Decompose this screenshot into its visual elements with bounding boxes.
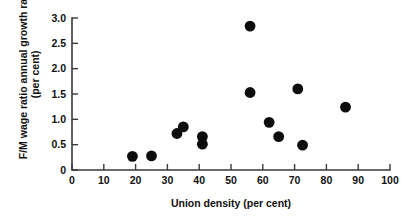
- data-point: [146, 150, 157, 161]
- x-axis-title: Union density (per cent): [171, 197, 291, 209]
- x-tick-label: 20: [130, 174, 142, 186]
- data-point: [245, 21, 256, 32]
- data-point: [127, 151, 138, 162]
- x-tick-label: 30: [162, 174, 174, 186]
- y-tick-label: 0.5: [51, 138, 66, 150]
- y-tick-label: 2.0: [51, 62, 66, 74]
- x-tick-label: 50: [225, 174, 237, 186]
- x-tick-label: 0: [69, 174, 75, 186]
- data-point: [273, 131, 284, 142]
- x-axis-ticks: 0102030405060708090100: [69, 164, 399, 186]
- y-tick-label: 1.0: [51, 113, 66, 125]
- axis-spine: [72, 18, 390, 170]
- y-axis-title: F/M wage ratio annual growth rate (per c…: [17, 0, 42, 159]
- axes: [72, 18, 390, 170]
- x-tick-label: 70: [289, 174, 301, 186]
- x-tick-label: 80: [321, 174, 333, 186]
- x-tick-label: 100: [381, 174, 399, 186]
- x-tick-label: 60: [257, 174, 269, 186]
- data-point: [178, 122, 189, 133]
- y-tick-label: 1.5: [51, 88, 66, 100]
- x-tick-label: 10: [98, 174, 110, 186]
- y-axis-title-line-1: F/M wage ratio annual growth rate: [17, 0, 29, 159]
- scatter-chart-figure: 0102030405060708090100 00.51.01.52.02.53…: [0, 0, 412, 217]
- x-tick-label: 40: [193, 174, 205, 186]
- data-points: [127, 21, 351, 162]
- data-point: [340, 102, 351, 113]
- y-tick-label: 2.5: [51, 37, 66, 49]
- y-tick-label: 3.0: [51, 12, 66, 24]
- y-axis-title-line-2: (per cent): [29, 0, 41, 159]
- x-tick-label: 90: [352, 174, 364, 186]
- y-tick-label: 0: [60, 164, 66, 176]
- data-point: [197, 139, 208, 150]
- y-axis-ticks: 00.51.01.52.02.53.0: [51, 12, 78, 176]
- plot-area: 0102030405060708090100 00.51.01.52.02.53…: [0, 0, 412, 217]
- data-point: [245, 87, 256, 98]
- data-point: [264, 117, 275, 128]
- data-point: [292, 84, 303, 95]
- data-point: [297, 140, 308, 151]
